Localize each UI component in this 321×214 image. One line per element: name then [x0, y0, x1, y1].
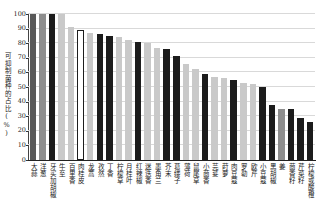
bar-薄荷 — [183, 64, 190, 160]
bar-肉豆蔻 — [230, 80, 237, 160]
gridline — [28, 13, 315, 14]
x-tick-label: 莳萝 — [220, 163, 227, 177]
y-tick-label: 100 — [2, 11, 26, 18]
x-tick-label: 月桂叶 — [124, 163, 131, 184]
bar-大蒜 — [30, 14, 37, 160]
y-tick-label: 0 — [2, 157, 26, 164]
y-tick-label: 20 — [2, 127, 26, 134]
x-tick-label: 鼠尾草 — [191, 163, 198, 184]
x-tick-label: 黑胡椒 — [268, 163, 275, 184]
x-tick-label: 柠檬草 — [115, 163, 122, 184]
bar-芥末 — [163, 49, 170, 160]
bar-罗勒 — [240, 83, 247, 160]
bar-茴香籽 — [288, 109, 295, 160]
y-tick-mark — [26, 43, 28, 44]
y-tick-label: 90 — [2, 25, 26, 32]
y-tick-mark — [26, 131, 28, 132]
bar-柠檬或酸橙 — [307, 122, 314, 160]
bar-肉桂皮 — [77, 30, 84, 160]
y-tick-mark — [26, 116, 28, 117]
bar-小豆蔻 — [259, 87, 266, 160]
y-tick-mark — [26, 29, 28, 30]
plot-area — [28, 14, 315, 160]
y-tick-label: 60 — [2, 69, 26, 76]
bar-芫荽 — [211, 77, 218, 160]
x-tick-label: 牙买加胡椒 — [48, 163, 55, 198]
x-tick-label: 葛缕子 — [172, 163, 179, 184]
x-tick-label: 罗勒 — [239, 163, 246, 177]
bar-红辣椒 — [135, 42, 142, 160]
bar-莳萝 — [221, 78, 228, 160]
y-tick-label: 50 — [2, 84, 26, 91]
y-tick-label: 10 — [2, 142, 26, 149]
x-tick-label: 芥末 — [163, 163, 170, 177]
bar-欧芹 — [250, 84, 257, 160]
y-tick-mark — [26, 58, 28, 59]
x-tick-label: 百里香 — [67, 163, 74, 184]
y-tick-label: 80 — [2, 40, 26, 47]
x-tick-label: 芹菜籽 — [297, 163, 304, 184]
bar-葛缕子 — [173, 56, 180, 160]
bar-chart: 可抑制菌种的占比(%) 0102030405060708090100大蒜洋葱牙买… — [0, 0, 321, 214]
x-tick-label: 姜 — [278, 163, 285, 170]
bar-牙买加胡椒 — [49, 14, 56, 160]
x-tick-label: 迷迭香 — [144, 163, 151, 184]
bar-洋葱 — [39, 14, 46, 160]
x-tick-label: 欧芹 — [249, 163, 256, 177]
x-tick-label: 薄荷 — [182, 163, 189, 177]
x-tick-label: 红辣椒 — [134, 163, 141, 184]
x-tick-label: 孜然 — [96, 163, 103, 177]
bar-黑胡椒 — [269, 105, 276, 160]
x-axis-line — [28, 160, 316, 161]
bar-牛至 — [58, 14, 65, 160]
x-tick-label: 柠檬或酸橙 — [306, 163, 313, 198]
x-tick-label: 牛至 — [57, 163, 64, 177]
y-tick-mark — [26, 87, 28, 88]
x-tick-label: 茴香籽 — [287, 163, 294, 184]
y-tick-mark — [26, 160, 28, 161]
x-tick-label: 墨角兰 — [153, 163, 160, 184]
x-tick-label: 肉桂皮 — [77, 163, 84, 184]
bar-小茴香 — [202, 74, 209, 160]
bar-迷迭香 — [144, 43, 151, 160]
y-tick-mark — [26, 14, 28, 15]
bar-百里香 — [68, 27, 75, 160]
bar-龙蒿 — [87, 33, 94, 160]
x-tick-label: 龙蒿 — [86, 163, 93, 177]
y-axis-title: 可抑制菌种的占比(%) — [3, 52, 10, 138]
bar-孜然 — [97, 34, 104, 160]
bar-柠檬草 — [116, 37, 123, 160]
x-tick-label: 洋葱 — [38, 163, 45, 177]
x-tick-label: 大蒜 — [29, 163, 36, 177]
x-tick-label: 小豆蔻 — [258, 163, 265, 184]
y-tick-label: 40 — [2, 98, 26, 105]
y-tick-mark — [26, 102, 28, 103]
y-tick-mark — [26, 145, 28, 146]
x-tick-label: 丁香 — [105, 163, 112, 177]
x-tick-label: 芫荽 — [211, 163, 218, 177]
bar-月桂叶 — [125, 40, 132, 160]
bar-墨角兰 — [154, 48, 161, 160]
x-tick-label: 肉豆蔻 — [230, 163, 237, 184]
y-tick-mark — [26, 72, 28, 73]
bar-鼠尾草 — [192, 69, 199, 160]
bar-丁香 — [106, 36, 113, 160]
x-tick-label: 小茴香 — [201, 163, 208, 184]
bar-芹菜籽 — [297, 118, 304, 160]
y-tick-label: 30 — [2, 113, 26, 120]
y-tick-label: 70 — [2, 54, 26, 61]
bar-姜 — [278, 109, 285, 160]
